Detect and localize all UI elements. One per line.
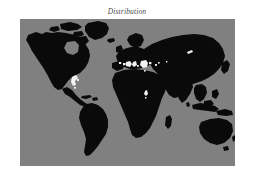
world-map xyxy=(20,19,235,166)
occurrence-marker-iran xyxy=(155,64,157,66)
map-panel xyxy=(20,19,235,166)
occurrence-marker-ontario xyxy=(77,79,79,81)
occurrence-marker-iberia xyxy=(119,62,121,64)
occurrence-marker-aegean xyxy=(137,65,139,67)
occurrence-marker-ohio-valley xyxy=(74,87,76,89)
occurrence-marker-tanzania xyxy=(145,97,146,99)
page-title: Distribution xyxy=(0,7,254,17)
occurrence-marker-west-mediterranean xyxy=(123,63,126,65)
occurrence-marker-caucasus xyxy=(149,62,151,64)
occurrence-marker-levant xyxy=(144,70,146,72)
occurrence-marker-caspian xyxy=(158,62,160,64)
figure-container: Distribution xyxy=(0,0,254,176)
occurrence-marker-central-asia xyxy=(166,61,167,62)
